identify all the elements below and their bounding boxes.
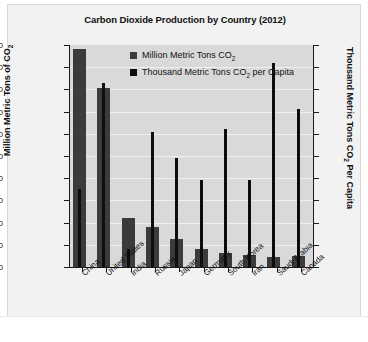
y-tick-label-left: 4000: [0, 174, 3, 183]
y-tick-right: [313, 45, 319, 46]
legend-swatch: [130, 52, 137, 59]
bar-thousand-metric-tons-per-capita: [272, 63, 275, 267]
y-tick-label-left: 10000: [0, 41, 3, 50]
bar-group: [94, 45, 118, 267]
y-axis-left-title: Million Metric Tons of CO2: [2, 45, 14, 156]
y-tick-right: [313, 200, 319, 201]
bar-thousand-metric-tons-per-capita: [297, 109, 300, 267]
y-tick-right: [313, 112, 319, 113]
y-tick-right: [313, 67, 319, 68]
bar-thousand-metric-tons-per-capita: [78, 189, 81, 267]
y-tick-label-left: 6000: [0, 129, 3, 138]
bar-group: [70, 45, 94, 267]
bar-thousand-metric-tons-per-capita: [151, 132, 154, 267]
y-tick-right: [313, 178, 319, 179]
y-tick-right: [313, 156, 319, 157]
y-tick-label-left: 8000: [0, 85, 3, 94]
y-tick-right: [313, 89, 319, 90]
page-edge-shadow: [0, 316, 368, 318]
y-tick-right: [313, 134, 319, 135]
bar-thousand-metric-tons-per-capita: [102, 83, 105, 267]
y-tick-left: [64, 267, 70, 268]
chart-title: Carbon Dioxide Production by Country (20…: [8, 14, 362, 25]
bar-thousand-metric-tons-per-capita: [224, 129, 227, 267]
y-tick-label-left: 3000: [0, 196, 3, 205]
legend-item: Thousand Metric Tons CO2 per Capita: [130, 67, 294, 81]
chart-legend: Million Metric Tons CO2Thousand Metric T…: [130, 50, 294, 84]
y-tick-label-left: 0: [0, 263, 3, 272]
y-axis-right-title: Thousand Metric Tons CO2 Per Capita: [343, 47, 355, 209]
legend-swatch: [130, 69, 137, 76]
y-tick-label-left: 9000: [0, 63, 3, 72]
y-tick-right: [313, 223, 319, 224]
y-tick-label-left: 5000: [0, 152, 3, 161]
chart-figure: Carbon Dioxide Production by Country (20…: [7, 4, 361, 318]
y-tick-label-left: 7000: [0, 107, 3, 116]
legend-item: Million Metric Tons CO2: [130, 50, 294, 64]
bar-thousand-metric-tons-per-capita: [200, 180, 203, 267]
bar-thousand-metric-tons-per-capita: [175, 158, 178, 267]
legend-label: Thousand Metric Tons CO2 per Capita: [142, 67, 294, 81]
y-tick-label-left: 2000: [0, 218, 3, 227]
legend-label: Million Metric Tons CO2: [142, 50, 235, 64]
y-tick-label-left: 1000: [0, 240, 3, 249]
